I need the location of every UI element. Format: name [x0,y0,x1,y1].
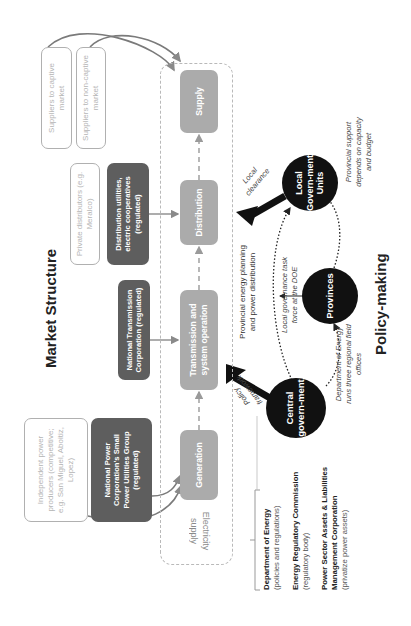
central-government-node: Central govern-ment [266,378,326,438]
agency-doe: Department of Energy (policies and regul… [262,460,282,590]
market-structure-title: Market Structure [42,249,59,368]
central-agencies-list: Department of Energy (policies and regul… [262,460,359,590]
provinces-node: Provinces [302,268,358,324]
policy-making-title: Policy-making [372,253,389,355]
agency-role: (privatize power assets) [340,460,350,590]
diagram-canvas: Market Structure Electricity supply Gene… [0,0,411,626]
doe-field-offices-note: Department of Energy runs three regional… [334,324,364,404]
agency-name: Department of Energy [262,460,272,590]
ntc-box: National Transmission Corporation (regul… [118,280,150,380]
agency-role: (policies and regulations) [272,460,282,590]
distribution-utilities-box: Distribution utilities, electric coopera… [107,163,149,265]
npc-spug-box: National Power Corporation's Small Power… [91,418,152,522]
provincial-planning-note: Provincial energy planning and power dis… [238,244,259,340]
agency-role: (regulatory body) [301,460,311,590]
figure-frame: Market Structure Electricity supply Gene… [0,0,411,626]
distribution-box: Distribution [180,180,218,245]
transmission-box: Transmission and system operation [180,290,218,390]
agency-name: Energy Regulatory Commission [291,460,301,590]
ipp-box: Independent power producers (competitive… [24,418,88,522]
private-distributors-box: Private distributors (e.g. Meralco) [70,163,100,265]
provincial-support-note: Provincial support depends on capacity a… [344,110,374,194]
electricity-supply-label: Electricity supply [188,502,211,560]
agency-name: Power Sector Assets & Liabilities Manage… [320,460,340,590]
agency-psalm: Power Sector Assets & Liabilities Manage… [320,460,350,590]
generation-box: Generation [180,430,218,500]
task-force-note: Local governance task force at the DOE [280,250,300,340]
supply-box: Supply [180,70,218,133]
suppliers-captive-box: Suppliers to captive market [41,47,72,149]
suppliers-noncaptive-box: Suppliers to non-captive market [76,47,106,149]
lgu-node: Local Govern-ment Units [282,155,338,211]
agency-erc: Energy Regulatory Commission (regulatory… [291,460,311,590]
